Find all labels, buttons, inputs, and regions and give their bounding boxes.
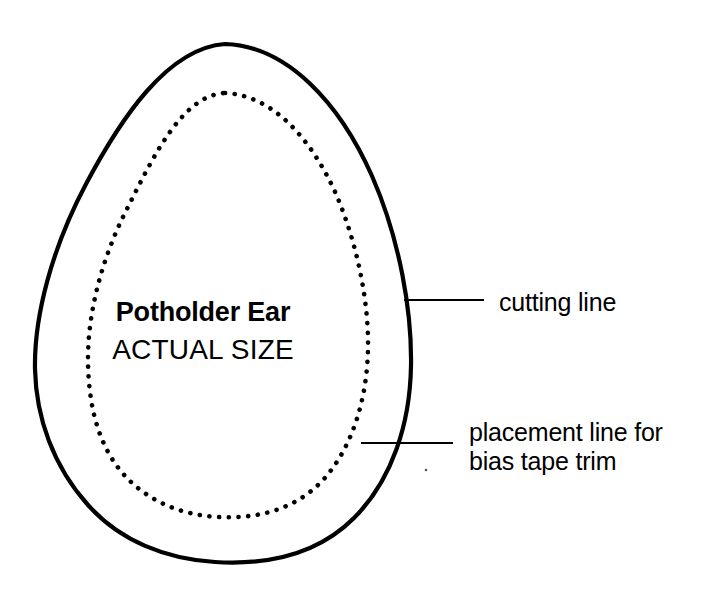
- cutting-line-label: cutting line: [499, 288, 616, 317]
- placement-line-label-row-1: placement line for: [469, 418, 663, 446]
- pattern-page: Potholder Ear ACTUAL SIZE cutting line p…: [0, 0, 713, 597]
- placement-line-label-row-2: bias tape trim: [469, 447, 663, 476]
- pattern-caption: Potholder Ear ACTUAL SIZE: [38, 297, 368, 366]
- placement-line-label: placement line forbias tape trim: [469, 418, 663, 476]
- pattern-title: Potholder Ear: [38, 297, 368, 329]
- pattern-size-note: ACTUAL SIZE: [38, 333, 368, 367]
- scan-speck-artifact: [425, 469, 428, 472]
